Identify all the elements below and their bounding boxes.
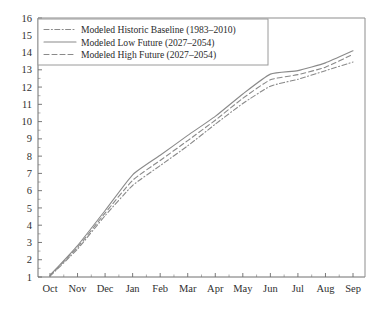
x-tick-label: Feb [152,283,168,294]
y-tick-label: 8 [27,151,32,162]
y-tick-label: 12 [22,82,33,93]
y-tick-label: 6 [27,185,32,196]
x-tick-label: Sep [345,283,361,294]
y-tick-label: 5 [27,203,32,214]
x-tick-label: Mar [179,283,197,294]
x-tick-label: Jan [126,283,141,294]
x-tick-label: Jun [263,283,278,294]
y-tick-label: 13 [22,64,33,75]
y-tick-label: 14 [22,47,33,58]
y-tick-label: 16 [22,13,33,24]
x-tick-label: Nov [68,283,87,294]
x-tick-label: Oct [42,283,57,294]
y-tick-label: 7 [27,168,32,179]
x-tick-label: Jul [292,283,304,294]
legend-label-high-future: Modeled High Future (2027–2054) [81,49,216,61]
x-tick-label: May [233,283,253,294]
y-tick-label: 15 [22,30,33,41]
y-tick-label: 4 [27,220,33,231]
y-tick-label: 11 [22,99,32,110]
y-tick-label: 10 [22,116,33,127]
legend-label-low-future: Modeled Low Future (2027–2054) [81,37,215,49]
y-tick-label: 9 [27,133,32,144]
legend-label-historic-baseline: Modeled Historic Baseline (1983–2010) [81,24,236,36]
x-tick-label: Dec [97,283,114,294]
x-tick-label: Aug [316,283,335,294]
chart-figure: 12345678910111213141516 OctNovDecJanFebM… [0,0,380,314]
chart-legend: Modeled Historic Baseline (1983–2010) Mo… [38,19,268,65]
y-tick-label: 3 [27,237,32,248]
x-tick-label: Apr [207,283,224,294]
line-chart-svg: 12345678910111213141516 OctNovDecJanFebM… [0,0,380,314]
y-tick-label: 1 [27,272,32,283]
y-tick-label: 2 [27,254,32,265]
